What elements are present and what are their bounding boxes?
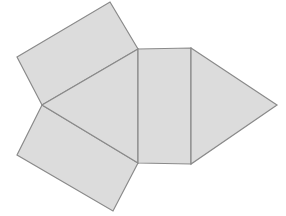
geometric-net-figure — [0, 0, 286, 216]
face-center-rectangle — [138, 48, 191, 164]
